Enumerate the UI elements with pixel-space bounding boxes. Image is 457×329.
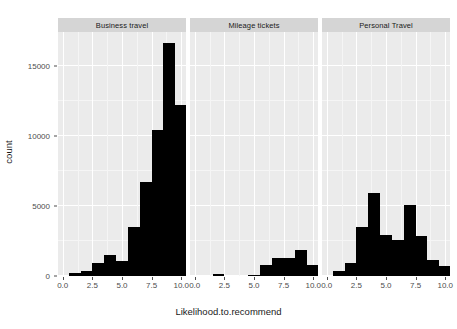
x-axis-tick-mark bbox=[416, 277, 417, 280]
histogram-bar bbox=[116, 261, 128, 276]
x-axis-tick-label: 2.5 bbox=[351, 281, 362, 290]
histogram-bar bbox=[81, 271, 93, 276]
bar-group bbox=[322, 32, 450, 276]
x-axis-tick-mark bbox=[284, 277, 285, 280]
histogram-bar bbox=[260, 265, 272, 276]
y-axis-tick-label: 5000 bbox=[32, 201, 50, 210]
histogram-bar bbox=[404, 205, 416, 276]
histogram-bar bbox=[295, 250, 307, 276]
histogram-bar bbox=[163, 43, 175, 276]
x-axis-tick-label: 10.0 bbox=[173, 281, 189, 290]
x-axis-tick-label: 0.0 bbox=[321, 281, 332, 290]
facet-panel-row: Business travel0.02.55.07.510.0Mileage t… bbox=[58, 18, 450, 276]
facet-strip-label: Personal Travel bbox=[322, 18, 450, 32]
y-axis-tick-mark bbox=[54, 135, 57, 136]
x-axis-tick-mark bbox=[327, 277, 328, 280]
x-axis: 0.02.55.07.510.0 bbox=[190, 277, 318, 299]
x-axis-tick-label: 7.5 bbox=[410, 281, 421, 290]
facet-panel: Mileage tickets0.02.55.07.510.0 bbox=[190, 18, 318, 276]
y-axis-tick-label: 10000 bbox=[28, 131, 50, 140]
histogram-bar bbox=[416, 236, 428, 276]
facet-plot-area bbox=[190, 32, 318, 276]
histogram-bar bbox=[272, 258, 284, 276]
x-axis-tick-label: 5.0 bbox=[248, 281, 259, 290]
faceted-histogram-chart: count Likelihood.to.recommend 0500010000… bbox=[0, 0, 457, 329]
histogram-bar bbox=[345, 263, 357, 276]
x-axis-tick-mark bbox=[386, 277, 387, 280]
histogram-bar bbox=[69, 273, 81, 276]
histogram-bar bbox=[213, 274, 225, 276]
x-axis-tick-mark bbox=[181, 277, 182, 280]
histogram-bar bbox=[427, 260, 439, 276]
y-axis-tick-mark bbox=[54, 205, 57, 206]
histogram-bar bbox=[92, 263, 104, 276]
facet-panel: Business travel0.02.55.07.510.0 bbox=[58, 18, 186, 276]
y-axis-tick-label: 0 bbox=[46, 272, 50, 281]
x-axis-tick-mark bbox=[122, 277, 123, 280]
x-axis-tick-label: 5.0 bbox=[116, 281, 127, 290]
histogram-bar bbox=[380, 235, 392, 276]
x-axis-tick-label: 7.5 bbox=[278, 281, 289, 290]
x-axis-tick-mark bbox=[445, 277, 446, 280]
facet-plot-area bbox=[58, 32, 186, 276]
facet-plot-area bbox=[322, 32, 450, 276]
histogram-bar bbox=[356, 227, 368, 276]
histogram-bar bbox=[152, 130, 164, 276]
x-axis-tick-label: 10.0 bbox=[437, 281, 453, 290]
histogram-bar bbox=[248, 275, 260, 276]
histogram-bar bbox=[128, 227, 140, 276]
x-axis-tick-label: 5.0 bbox=[380, 281, 391, 290]
x-axis-tick-mark bbox=[152, 277, 153, 280]
x-axis-tick-label: 7.5 bbox=[146, 281, 157, 290]
histogram-bar bbox=[392, 240, 404, 276]
x-axis-title: Likelihood.to.recommend bbox=[0, 306, 457, 317]
x-axis-tick-mark bbox=[63, 277, 64, 280]
x-axis-tick-label: 0.0 bbox=[189, 281, 200, 290]
y-axis-tick-label: 15000 bbox=[28, 61, 50, 70]
histogram-bar bbox=[307, 265, 318, 276]
x-axis-tick-label: 2.5 bbox=[87, 281, 98, 290]
facet-strip-label: Business travel bbox=[58, 18, 186, 32]
x-axis-tick-mark bbox=[313, 277, 314, 280]
bar-group bbox=[190, 32, 318, 276]
y-axis-title: count bbox=[3, 140, 14, 163]
x-axis-tick-label: 10.0 bbox=[305, 281, 321, 290]
x-axis-tick-mark bbox=[356, 277, 357, 280]
x-axis-tick-mark bbox=[224, 277, 225, 280]
x-axis-tick-mark bbox=[195, 277, 196, 280]
facet-strip-label: Mileage tickets bbox=[190, 18, 318, 32]
x-axis: 0.02.55.07.510.0 bbox=[58, 277, 186, 299]
histogram-bar bbox=[175, 105, 186, 276]
histogram-bar bbox=[104, 255, 116, 276]
facet-panel: Personal Travel0.02.55.07.510.0 bbox=[322, 18, 450, 276]
x-axis-tick-label: 0.0 bbox=[57, 281, 68, 290]
x-axis-tick-mark bbox=[92, 277, 93, 280]
bar-group bbox=[58, 32, 186, 276]
x-axis-tick-mark bbox=[254, 277, 255, 280]
histogram-bar bbox=[333, 271, 345, 276]
histogram-bar bbox=[439, 266, 450, 276]
y-axis-tick-mark bbox=[54, 65, 57, 66]
histogram-bar bbox=[368, 193, 380, 276]
x-axis-tick-label: 2.5 bbox=[219, 281, 230, 290]
histogram-bar bbox=[284, 258, 296, 276]
histogram-bar bbox=[140, 182, 152, 276]
x-axis: 0.02.55.07.510.0 bbox=[322, 277, 450, 299]
y-axis-tick-mark bbox=[54, 276, 57, 277]
